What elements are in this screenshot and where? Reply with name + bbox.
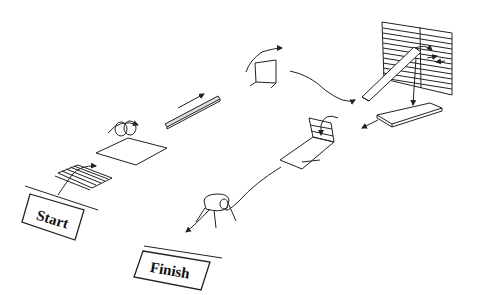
ladder-mat-icon	[55, 165, 112, 195]
obstacle-course-diagram: Start Finish	[0, 0, 478, 295]
slide-box-icon	[280, 116, 338, 169]
path-arrow-icon	[290, 71, 355, 101]
hoops-mat-icon	[96, 121, 167, 165]
hurdle-icon	[246, 48, 282, 88]
balance-beam-icon	[165, 94, 220, 129]
path-curve-icon	[225, 167, 281, 210]
climbing-wall-icon	[362, 22, 452, 128]
tunnel-icon	[186, 194, 236, 232]
